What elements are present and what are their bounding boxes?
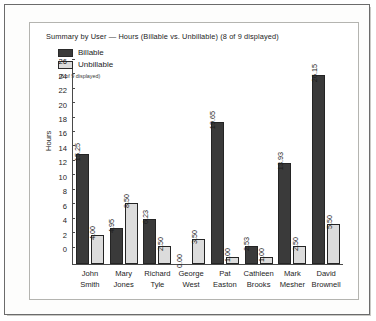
bar-billable[interactable]: 2.53: [245, 246, 258, 264]
category-label-line: Tyle: [141, 280, 175, 291]
y-axis-tick-label: 4: [63, 216, 67, 225]
bar-group: 15.254.00: [73, 69, 107, 264]
bar-group: 13.932.50: [276, 69, 310, 264]
x-axis-category-labels: JohnSmithMaryJonesRichardTyleGeorgeWestP…: [73, 269, 343, 290]
y-axis-tick-label: 10: [59, 173, 67, 182]
x-axis-category-label: MarkMesher: [276, 269, 310, 290]
bar-value-label: 19.65: [208, 111, 217, 129]
bar-value-label: 1.00: [223, 248, 232, 262]
bar-unbillable[interactable]: 5.50: [327, 224, 340, 264]
category-label-line: John: [73, 269, 107, 280]
bar-group: 4.958.50: [107, 69, 141, 264]
y-axis-tick: 26: [59, 50, 72, 68]
bar-value-label: 0.00: [175, 254, 184, 268]
category-label-line: Mark: [276, 269, 310, 280]
x-axis-category-label: CathleenBrooks: [242, 269, 276, 290]
x-axis-category-label: JohnSmith: [73, 269, 107, 290]
x-axis-line: [72, 264, 343, 265]
bar-value-label: 13.93: [276, 152, 285, 170]
bar-group: 19.651.00: [208, 69, 242, 264]
category-label-line: Mesher: [276, 280, 310, 291]
legend-label-unbillable: Unbillable: [78, 60, 113, 69]
legend-label-billable: Billable: [78, 48, 104, 57]
y-axis-tick-label: 22: [59, 86, 67, 95]
category-label-line: Easton: [208, 280, 242, 291]
category-label-line: Brooks: [242, 280, 276, 291]
bar-unbillable[interactable]: 3.50: [192, 239, 205, 264]
category-label-line: Pat: [208, 269, 242, 280]
bar-value-label: 4.00: [88, 226, 97, 240]
y-axis-tick-label: 16: [59, 129, 67, 138]
category-label-line: Smith: [73, 280, 107, 291]
bar-unbillable[interactable]: 1.00: [260, 257, 273, 264]
bar-value-label: 4.95: [107, 219, 116, 233]
bar-value-label: 26.15: [310, 64, 319, 82]
bar-value-label: 2.53: [242, 237, 251, 251]
category-label-line: Cathleen: [242, 269, 276, 280]
y-axis-tick-label: 0: [63, 245, 67, 254]
bar-group: 26.155.50: [309, 69, 343, 264]
bar-unbillable[interactable]: 2.50: [158, 246, 171, 264]
y-axis-tick-label: 14: [59, 144, 67, 153]
chart-panel: Summary by User — Hours (Billable vs. Un…: [29, 22, 359, 300]
bar-value-label: 2.50: [156, 237, 165, 251]
bar-value-label: 2.50: [291, 237, 300, 251]
bar-value-label: 6.23: [141, 210, 150, 224]
plot-area: 02468101214161820222426 15.254.004.958.5…: [72, 69, 343, 265]
y-axis-tick-label: 20: [59, 101, 67, 110]
x-axis-category-label: PatEaston: [208, 269, 242, 290]
bar-group: 2.531.00: [242, 69, 276, 264]
bar-groups: 15.254.004.958.506.232.500.003.5019.651.…: [73, 69, 343, 264]
bar-group: 0.003.50: [174, 69, 208, 264]
x-axis-category-label: GeorgeWest: [174, 269, 208, 290]
bar-billable[interactable]: 19.65: [211, 122, 224, 264]
bar-billable[interactable]: 6.23: [143, 219, 156, 264]
category-label-line: Brownell: [309, 280, 343, 291]
y-axis-tick-label: 8: [63, 187, 67, 196]
category-label-line: Richard: [141, 269, 175, 280]
y-axis-tick-label: 6: [63, 202, 67, 211]
bar-value-label: 5.50: [325, 215, 334, 229]
bar-unbillable[interactable]: 1.00: [226, 257, 239, 264]
chart-title: Summary by User — Hours (Billable vs. Un…: [46, 32, 279, 41]
y-axis-tick-label: 2: [63, 231, 67, 240]
bar-unbillable[interactable]: 2.50: [293, 246, 306, 264]
bar-value-label: 8.50: [122, 194, 131, 208]
category-label-line: Mary: [107, 269, 141, 280]
bar-value-label: 15.25: [73, 143, 82, 161]
y-axis-tick-label: 26: [59, 57, 67, 66]
bar-billable[interactable]: 26.15: [312, 75, 325, 264]
category-label-line: David: [309, 269, 343, 280]
bar-group: 6.232.50: [141, 69, 175, 264]
bar-value-label: 3.50: [190, 230, 199, 244]
bar-unbillable[interactable]: 8.50: [125, 203, 138, 264]
category-label-line: Jones: [107, 280, 141, 291]
page-frame: Summary by User — Hours (Billable vs. Un…: [4, 4, 370, 315]
category-label-line: George: [174, 269, 208, 280]
bar-billable[interactable]: 4.95: [110, 228, 123, 264]
category-label-line: West: [174, 280, 208, 291]
bar-unbillable[interactable]: 4.00: [91, 235, 104, 264]
y-axis-tick-label: 12: [59, 158, 67, 167]
x-axis-category-label: RichardTyle: [141, 269, 175, 290]
y-axis-title: Hours: [44, 131, 53, 151]
bar-billable[interactable]: 15.25: [76, 154, 89, 264]
y-axis-tick-label: 24: [59, 72, 67, 81]
x-axis-category-label: DavidBrownell: [309, 269, 343, 290]
y-axis-tick-label: 18: [59, 115, 67, 124]
bar-billable[interactable]: 13.93: [278, 163, 291, 264]
bar-value-label: 1.00: [257, 248, 266, 262]
x-axis-category-label: MaryJones: [107, 269, 141, 290]
y-axis-tick-mark: [72, 59, 75, 60]
